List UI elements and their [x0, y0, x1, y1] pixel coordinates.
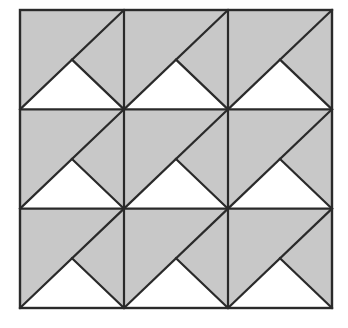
pattern-cell	[124, 209, 228, 308]
figure-root: Tiled square pattern of shaded and unsha…	[0, 0, 348, 328]
pattern-cell	[228, 209, 332, 308]
pattern-cell	[20, 109, 124, 208]
pattern-cell	[20, 10, 124, 109]
pattern-cell	[20, 209, 124, 308]
pattern-cell	[228, 109, 332, 208]
cells-layer	[20, 10, 332, 308]
pattern-cell	[124, 109, 228, 208]
pattern-cell	[124, 10, 228, 109]
tiled-triangle-pattern: Tiled square pattern of shaded and unsha…	[0, 0, 348, 328]
pattern-cell	[228, 10, 332, 109]
